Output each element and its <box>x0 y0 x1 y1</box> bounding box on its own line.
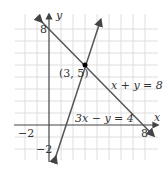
tick-y-8: 8 <box>40 24 47 35</box>
y-axis-label: y <box>56 10 62 21</box>
tick-x-neg2: −2 <box>18 128 34 139</box>
tick-y-neg2: −2 <box>36 144 52 155</box>
tick-x-8: 8 <box>141 128 148 139</box>
line2-label: 3x − y = 4 <box>75 113 134 124</box>
point-label: (3, 5) <box>59 68 89 79</box>
x-axis-label: x <box>154 112 160 123</box>
line1-label: x + y = 8 <box>111 80 163 91</box>
